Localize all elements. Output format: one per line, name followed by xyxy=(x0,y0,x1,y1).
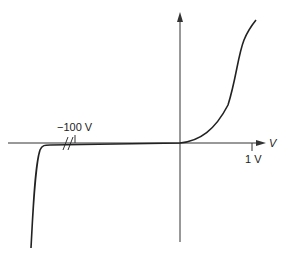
reverse-voltage-label: −100 V xyxy=(57,121,93,133)
forward-voltage-label: 1 V xyxy=(245,153,262,165)
diode-iv-diagram: −100 V 1 V V xyxy=(0,0,293,259)
x-axis-label: V xyxy=(269,137,278,149)
iv-curve xyxy=(31,20,256,248)
y-axis-arrow-icon xyxy=(177,12,183,22)
x-axis-arrow-icon xyxy=(256,140,266,146)
